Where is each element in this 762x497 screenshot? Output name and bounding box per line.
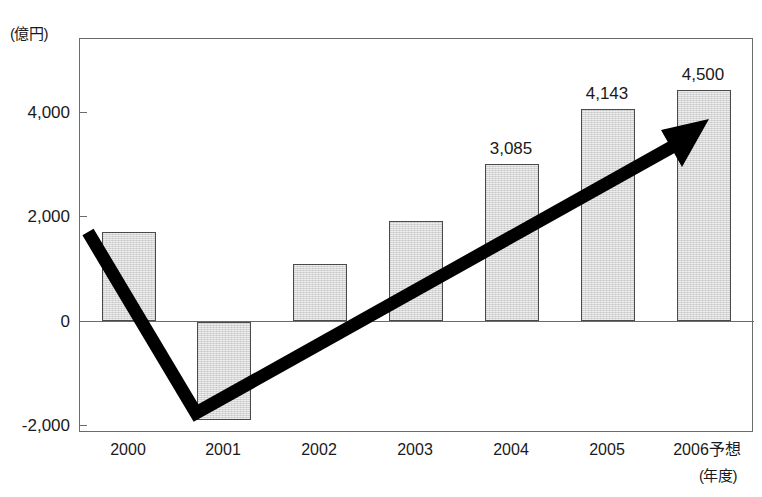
- bar-value-2005: 4,143: [586, 85, 629, 102]
- y-tick-mark-4000: [80, 112, 87, 113]
- plot-area: [79, 38, 753, 432]
- zero-baseline: [80, 321, 754, 322]
- bar-2003: [389, 221, 443, 321]
- bar-2006: [677, 90, 731, 321]
- y-tick-label-0: 0: [0, 313, 70, 330]
- bar-chart: (億円) 4,000 2,000 0 -2,000 3,085 4,143 4,…: [0, 0, 762, 497]
- bar-2001: [197, 322, 251, 420]
- y-tick-label-4000: 4,000: [0, 104, 70, 121]
- bar-value-2004: 3,085: [490, 140, 533, 157]
- y-axis-unit-label: (億円): [10, 22, 48, 43]
- y-tick-mark-minus2000: [80, 425, 87, 426]
- y-tick-label-2000: 2,000: [0, 208, 70, 225]
- bar-value-2006: 4,500: [682, 66, 725, 83]
- bar-2000: [102, 232, 156, 321]
- x-tick-label-2001: 2001: [205, 442, 241, 458]
- x-tick-label-2005: 2005: [589, 442, 625, 458]
- x-tick-label-2003: 2003: [397, 442, 433, 458]
- bar-2005: [581, 109, 635, 321]
- x-tick-label-2006: 2006予想: [673, 442, 741, 458]
- x-axis-unit-label: (年度): [699, 468, 737, 483]
- bar-2002: [293, 264, 347, 321]
- x-tick-label-2002: 2002: [301, 442, 337, 458]
- x-tick-label-2004: 2004: [493, 442, 529, 458]
- x-tick-label-2000: 2000: [110, 442, 146, 458]
- bar-2004: [485, 164, 539, 321]
- y-tick-mark-2000: [80, 216, 87, 217]
- y-tick-label-minus2000: -2,000: [0, 417, 70, 434]
